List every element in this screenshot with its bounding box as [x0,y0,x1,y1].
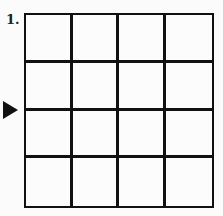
grid-cell[interactable] [73,63,120,111]
grid-cell[interactable] [119,63,166,111]
grid-cell[interactable] [26,111,73,159]
grid-cell[interactable] [73,158,120,206]
puzzle-grid [24,13,214,208]
grid-cell[interactable] [119,111,166,159]
grid-cell[interactable] [166,158,213,206]
grid-cell[interactable] [166,63,213,111]
grid-cell[interactable] [26,15,73,63]
grid-cell[interactable] [73,15,120,63]
grid-cell[interactable] [26,63,73,111]
grid-cell[interactable] [119,15,166,63]
puzzle-number: 1. [6,12,20,27]
grid-cell[interactable] [119,158,166,206]
grid-cell[interactable] [166,15,213,63]
grid-cell[interactable] [166,111,213,159]
triangle-right-icon [3,101,18,119]
grid-cell[interactable] [73,111,120,159]
grid-cell[interactable] [26,158,73,206]
